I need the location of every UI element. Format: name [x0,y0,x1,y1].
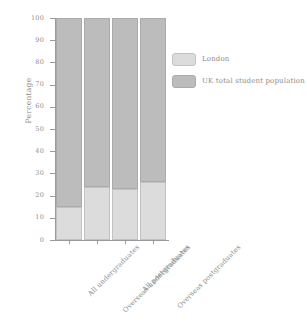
bar-group[interactable] [112,18,138,240]
x-axis-tick [97,240,98,244]
y-axis-tick [50,151,55,152]
y-axis-tick [50,85,55,86]
x-axis-line [55,240,169,241]
bar-segment-london[interactable] [84,187,110,240]
legend-label-london: London [202,55,229,63]
y-axis-tick-label: 70 [0,81,44,88]
y-axis-tick [50,40,55,41]
y-axis-tick [50,107,55,108]
x-axis-tick [153,240,154,244]
bar-group[interactable] [140,18,166,240]
y-axis-tick [50,173,55,174]
x-axis-tick [69,240,70,244]
y-axis-tick [50,18,55,19]
legend-swatch-london-icon [172,53,196,66]
bar-group[interactable] [56,18,82,240]
y-axis-tick-label: 0 [0,237,44,244]
y-axis-tick [50,129,55,130]
y-axis-tick [50,240,55,241]
bar-group[interactable] [84,18,110,240]
y-axis-tick [50,196,55,197]
y-axis-tick-label: 60 [0,103,44,110]
x-axis-label: All postgraduates [142,244,192,294]
legend-item-uk-total[interactable]: UK total student population [172,74,304,88]
y-axis-tick-label: 40 [0,148,44,155]
x-axis-tick [125,240,126,244]
bar-segment-uk-total[interactable] [140,18,166,182]
y-axis-tick-label: 80 [0,59,44,66]
legend-label-uk-total: UK total student population [202,77,305,85]
bar-segment-london[interactable] [112,189,138,240]
plot-area [56,18,168,240]
y-axis-tick-label: 50 [0,126,44,133]
chart-legend: London UK total student population [172,52,304,96]
y-axis-tick-label: 10 [0,214,44,221]
y-axis-tick-label: 20 [0,192,44,199]
y-axis-tick [50,218,55,219]
legend-item-london[interactable]: London [172,52,304,66]
y-axis-tick [50,62,55,63]
bar-segment-uk-total[interactable] [112,18,138,189]
bar-segment-london[interactable] [140,182,166,240]
bar-segment-uk-total[interactable] [84,18,110,187]
y-axis-tick-label: 100 [0,15,44,22]
x-axis-label: All undergraduates [87,244,141,298]
legend-swatch-uk-total-icon [172,75,196,88]
bar-segment-london[interactable] [56,207,82,240]
y-axis-tick-label: 90 [0,37,44,44]
y-axis-tick-label: 30 [0,170,44,177]
stacked-bar-chart: Percentage 0102030405060708090100 All un… [0,0,307,329]
bar-segment-uk-total[interactable] [56,18,82,207]
